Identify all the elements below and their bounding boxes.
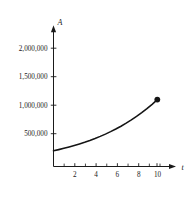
x-tick-label-2: 2	[73, 171, 77, 179]
x-tick-label-4: 4	[94, 171, 98, 179]
x-tick-label-10: 10	[154, 171, 162, 179]
y-tick-label-2000000: 2,000,000	[19, 45, 48, 53]
y-axis-label: A	[57, 18, 63, 27]
y-tick-label-500000: 500,000	[24, 130, 48, 138]
y-axis-arrow-icon	[51, 25, 56, 32]
x-axis-arrow-icon	[169, 164, 176, 169]
chart-plot-area: 2,000,000 1,500,000 1,000,000 500,000 2 …	[0, 0, 191, 198]
endpoint-marker-dot	[154, 97, 160, 103]
chart-figure: 2,000,000 1,500,000 1,000,000 500,000 2 …	[0, 0, 191, 198]
data-curve-line	[54, 100, 158, 151]
x-tick-label-6: 6	[116, 171, 120, 179]
y-tick-label-1000000: 1,000,000	[19, 102, 48, 110]
y-tick-label-1500000: 1,500,000	[19, 73, 48, 81]
x-tick-label-8: 8	[137, 171, 141, 179]
x-axis-label: t	[182, 163, 185, 172]
